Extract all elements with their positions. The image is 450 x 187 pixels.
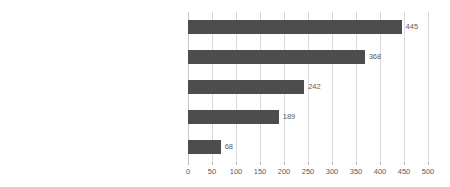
x-tick-label: 300 <box>326 167 339 176</box>
x-tick-mark <box>188 162 189 165</box>
x-tick-label: 500 <box>422 167 435 176</box>
x-tick-mark <box>404 162 405 165</box>
x-tick-label: 0 <box>186 167 190 176</box>
x-tick-mark <box>236 162 237 165</box>
x-tick-mark <box>284 162 285 165</box>
x-tick-label: 100 <box>230 167 243 176</box>
x-axis: 050100150200250300350400450500 <box>188 162 428 187</box>
x-tick-mark <box>332 162 333 165</box>
x-tick-mark <box>212 162 213 165</box>
horizontal-bar-chart: 44536824218968 Critiquing Teacher or Sch… <box>0 0 450 187</box>
x-tick-label: 150 <box>254 167 267 176</box>
x-tick-label: 450 <box>398 167 411 176</box>
category-axis-labels: Critiquing Teacher or School PracticesCr… <box>0 12 450 162</box>
x-tick-mark <box>308 162 309 165</box>
x-tick-label: 50 <box>208 167 216 176</box>
x-tick-mark <box>356 162 357 165</box>
x-tick-label: 200 <box>278 167 291 176</box>
x-tick-label: 400 <box>374 167 387 176</box>
x-tick-mark <box>428 162 429 165</box>
x-tick-mark <box>380 162 381 165</box>
x-tick-label: 250 <box>302 167 315 176</box>
x-tick-label: 350 <box>350 167 363 176</box>
x-tick-mark <box>260 162 261 165</box>
